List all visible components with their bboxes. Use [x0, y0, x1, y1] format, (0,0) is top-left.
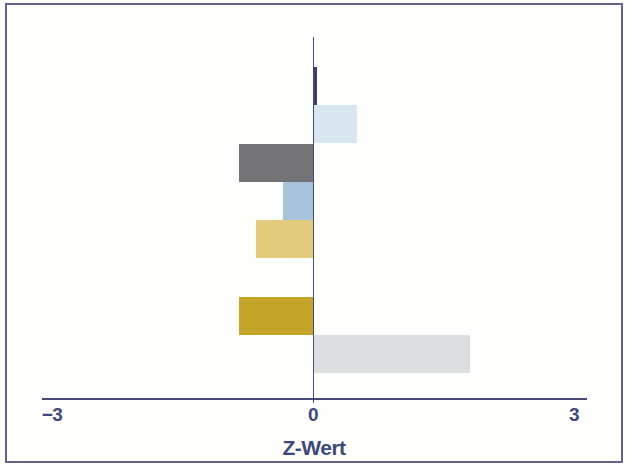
gold-bar [239, 297, 313, 335]
khaki-bar [256, 220, 313, 258]
chart-figure: −303 Z-Wert [0, 0, 635, 467]
x-axis-title: Z-Wert [282, 436, 345, 460]
light-gray-bar [313, 335, 470, 373]
dark-gray-bar [239, 144, 313, 182]
zero-axis-line [313, 37, 315, 403]
x-tick-label-0: 0 [308, 404, 318, 426]
x-tick-label-3: 3 [569, 404, 579, 426]
x-axis-line [42, 398, 587, 400]
x-tick-label--3: −3 [42, 404, 63, 426]
plot-area: −303 Z-Wert [0, 0, 635, 467]
medium-blue-bar [283, 182, 313, 220]
pale-blue-bar [313, 105, 357, 143]
